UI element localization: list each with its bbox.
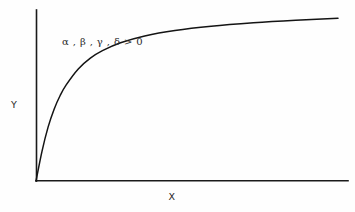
- x-axis-label: X: [169, 191, 176, 202]
- figure-canvas: Y X α , β , γ , δ > 0: [0, 0, 355, 212]
- y-axis-label: Y: [10, 99, 17, 110]
- plot-area: Y X α , β , γ , δ > 0: [0, 0, 355, 212]
- parameter-condition-annotation: α , β , γ , δ > 0: [62, 36, 143, 47]
